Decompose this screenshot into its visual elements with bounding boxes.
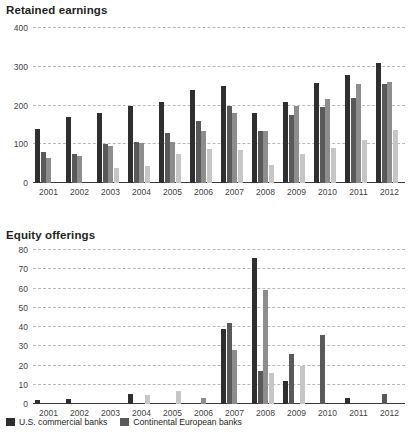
legend-label: U.S. commercial banks <box>19 417 107 427</box>
bar <box>356 84 361 183</box>
bar <box>345 75 350 184</box>
bar-group: 2004 <box>126 250 157 404</box>
bar-group: 2001 <box>33 250 64 404</box>
chart-panel-retained-earnings: Retained earnings 0100200300400200120022… <box>0 0 413 218</box>
y-axis-tick-label: 200 <box>14 101 28 110</box>
y-axis-tick-label: 10 <box>19 380 28 389</box>
bar-group: 2007 <box>219 28 250 183</box>
bar <box>320 107 325 183</box>
legend-label: Continental European banks <box>133 417 241 427</box>
bar <box>196 121 201 183</box>
plot-area-equity-offerings: 0102030405060708020012002200320042005200… <box>33 250 405 404</box>
bar <box>283 102 288 183</box>
bar <box>252 258 257 404</box>
x-axis-tick-label: 2009 <box>281 187 312 197</box>
y-axis-tick-label: 40 <box>19 323 28 332</box>
bar <box>294 106 299 183</box>
y-axis-tick-label: 0 <box>23 400 28 409</box>
bar <box>227 106 232 184</box>
bar <box>66 399 71 404</box>
bar <box>376 63 381 183</box>
y-axis-tick-label: 0 <box>23 179 28 188</box>
bar <box>331 148 336 183</box>
bar <box>139 143 144 183</box>
bar <box>269 373 274 404</box>
bar <box>221 86 226 183</box>
bar <box>382 394 387 404</box>
bar <box>362 140 367 183</box>
bar <box>103 144 108 183</box>
bar <box>258 131 263 183</box>
bar <box>134 142 139 183</box>
bar-group: 2002 <box>64 28 95 183</box>
bar <box>269 165 274 183</box>
legend-swatch-icon <box>6 418 15 426</box>
bar <box>289 115 294 183</box>
bar <box>35 129 40 183</box>
bar <box>289 354 294 404</box>
bar-group: 2003 <box>95 250 126 404</box>
bar <box>314 83 319 183</box>
bar <box>232 350 237 404</box>
x-axis-tick-label: 2008 <box>250 187 281 197</box>
bar <box>201 131 206 183</box>
bar-group: 2012 <box>374 250 405 404</box>
y-axis-tick-label: 50 <box>19 303 28 312</box>
bar-group: 2005 <box>157 250 188 404</box>
bar-group: 2002 <box>64 250 95 404</box>
y-axis-tick-label: 60 <box>19 284 28 293</box>
bar-group: 2004 <box>126 28 157 183</box>
x-axis-tick-label: 2007 <box>219 187 250 197</box>
bar <box>207 149 212 183</box>
bar <box>382 84 387 183</box>
x-axis-tick-label: 2004 <box>126 187 157 197</box>
bar-group: 2009 <box>281 28 312 183</box>
bar <box>283 381 288 404</box>
x-axis-tick-label: 2011 <box>343 187 374 197</box>
bar-group: 2008 <box>250 250 281 404</box>
bar-group: 2011 <box>343 28 374 183</box>
bar <box>72 154 77 183</box>
legend-swatch-icon <box>120 418 129 426</box>
y-axis-tick-label: 400 <box>14 24 28 33</box>
bar <box>300 366 305 405</box>
chart-legend: U.S. commercial banksContinental Europea… <box>6 417 242 427</box>
bar <box>258 371 263 404</box>
bar <box>320 335 325 404</box>
x-axis-tick-label: 2012 <box>374 187 405 197</box>
bar <box>46 158 51 183</box>
legend-item: U.S. commercial banks <box>6 417 107 427</box>
bar-group: 2005 <box>157 28 188 183</box>
bar <box>128 106 133 184</box>
bar <box>190 90 195 183</box>
bar <box>176 391 181 404</box>
bar <box>176 154 181 183</box>
bar-group: 2011 <box>343 250 374 404</box>
x-axis-tick-label: 2008 <box>250 408 281 418</box>
bar <box>170 142 175 183</box>
bar <box>128 394 133 404</box>
bar-group: 2008 <box>250 28 281 183</box>
plot-area-retained-earnings: 0100200300400200120022003200420052006200… <box>33 28 405 183</box>
bar <box>325 99 330 183</box>
x-axis-tick-label: 2003 <box>95 187 126 197</box>
y-axis-tick-label: 20 <box>19 361 28 370</box>
bar <box>300 154 305 183</box>
bar <box>201 398 206 404</box>
bar-group: 2003 <box>95 28 126 183</box>
bar <box>66 117 71 183</box>
bar <box>159 102 164 183</box>
bar <box>252 113 257 183</box>
x-axis-tick-label: 2001 <box>33 187 64 197</box>
bar <box>145 395 150 404</box>
bar <box>77 156 82 183</box>
bar <box>232 113 237 183</box>
x-axis-tick-label: 2010 <box>312 408 343 418</box>
x-axis-tick-label: 2005 <box>157 187 188 197</box>
y-axis-tick-label: 70 <box>19 265 28 274</box>
bar <box>345 398 350 404</box>
bar-group: 2001 <box>33 28 64 183</box>
bar <box>35 400 40 404</box>
chart-title-retained-earnings: Retained earnings <box>0 0 413 17</box>
bar-group: 2007 <box>219 250 250 404</box>
